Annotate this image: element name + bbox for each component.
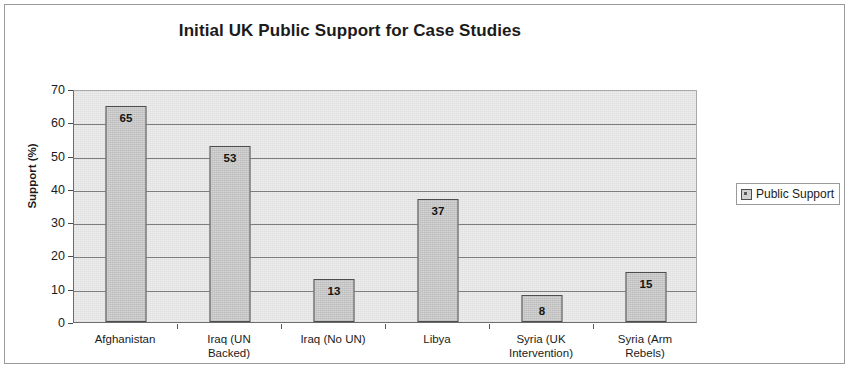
chart-legend: Public Support [736,183,840,205]
bar-slot: 37 [386,91,490,322]
x-axis-tick-mark [177,324,178,329]
x-axis-category-label-line: Iraq (UN [177,332,281,346]
y-axis-tick-label: 60 [25,116,65,130]
y-axis-tick-label: 40 [25,183,65,197]
bar-slot: 15 [594,91,697,322]
x-axis-tick-mark [489,324,490,329]
y-axis-tick-label: 20 [25,249,65,263]
bar[interactable]: 8 [522,295,563,322]
x-axis-category-label-line: Afghanistan [73,332,177,346]
plot-area: 65531337815 [73,90,697,323]
x-axis-tick-mark [385,324,386,329]
y-axis-tick-label: 70 [25,83,65,97]
bar-slot: 8 [490,91,594,322]
bar-value-label: 53 [211,152,250,164]
chart-title: Initial UK Public Support for Case Studi… [5,21,695,41]
x-axis-category-label-line: Backed) [177,346,281,360]
legend-entry-label: Public Support [756,187,834,201]
bar-slot: 13 [282,91,386,322]
bar-value-label: 65 [107,112,146,124]
x-axis-category-label: Iraq (UNBacked) [177,332,281,360]
x-axis-category-label: Afghanistan [73,332,177,346]
x-axis-category-label: Syria (UKIntervention) [489,332,593,360]
x-axis-category-label-line: Intervention) [489,346,593,360]
x-axis-category-label-line: Iraq (No UN) [281,332,385,346]
series-swatch-icon [741,189,752,200]
x-axis-category-label-line: Rebels) [593,346,697,360]
bar-value-label: 15 [627,278,666,290]
bar-value-label: 13 [315,285,354,297]
x-axis-tick-mark [593,324,594,329]
x-axis-category-label-line: Libya [385,332,489,346]
bar-slot: 65 [74,91,178,322]
x-axis-tick-mark [281,324,282,329]
bar[interactable]: 13 [314,279,355,322]
x-axis-category-label-line: Syria (Arm [593,332,697,346]
y-axis-tick-label: 50 [25,150,65,164]
y-axis-tick-label: 0 [25,316,65,330]
x-axis-category-label: Syria (ArmRebels) [593,332,697,360]
bar-value-label: 8 [523,305,562,317]
y-axis-tick-mark [68,323,73,324]
plot-wrapper: 65531337815 [73,90,697,323]
bar-slot: 53 [178,91,282,322]
x-axis-category-label: Iraq (No UN) [281,332,385,346]
bar[interactable]: 37 [418,199,459,322]
bar[interactable]: 53 [210,146,251,322]
bars-layer: 65531337815 [74,91,696,322]
bar[interactable]: 15 [626,272,667,322]
x-axis-category-label-line: Syria (UK [489,332,593,346]
bar[interactable]: 65 [106,106,147,322]
bar-value-label: 37 [419,205,458,217]
y-axis-tick-label: 30 [25,216,65,230]
chart-frame: Initial UK Public Support for Case Studi… [4,4,845,364]
x-axis-category-label: Libya [385,332,489,346]
y-axis-tick-label: 10 [25,283,65,297]
